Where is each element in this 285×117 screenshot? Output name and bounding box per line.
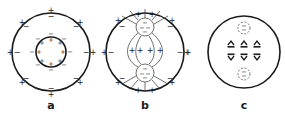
- middle-plus-row-b: + + + +: [129, 46, 164, 55]
- svg-text:+: +: [48, 36, 53, 44]
- svg-text:−: −: [108, 48, 115, 57]
- svg-text:−: −: [23, 74, 30, 83]
- panel-label-b: b: [135, 99, 155, 112]
- svg-text:−: −: [48, 84, 55, 93]
- svg-text:+: +: [101, 48, 108, 57]
- svg-text:−: −: [29, 48, 34, 56]
- svg-text:+: +: [129, 46, 136, 55]
- svg-text:−: −: [119, 22, 126, 31]
- svg-text:−: −: [241, 72, 246, 80]
- svg-text:−: −: [83, 48, 90, 57]
- svg-text:+: +: [135, 86, 142, 95]
- svg-text:+: +: [7, 48, 14, 57]
- svg-text:+: +: [135, 10, 142, 19]
- svg-text:−: −: [73, 74, 80, 83]
- svg-text:−: −: [67, 48, 72, 56]
- svg-text:+: +: [157, 46, 164, 55]
- stray-plus-charge-c: +: [185, 48, 192, 57]
- panel-b: − − − − − − − − + + + + + + + + + + + +: [101, 9, 191, 95]
- panel-c: + − − − −: [185, 16, 280, 88]
- svg-text:−: −: [167, 74, 174, 83]
- svg-text:+: +: [39, 57, 44, 65]
- dashed-circle-charges-c: − − − −: [241, 22, 246, 80]
- upper-dipole-row-c: [228, 41, 261, 48]
- svg-text:+: +: [60, 48, 65, 56]
- svg-text:−: −: [142, 28, 147, 36]
- svg-text:+: +: [149, 86, 156, 95]
- svg-text:+: +: [147, 46, 154, 55]
- svg-text:+: +: [57, 57, 62, 65]
- svg-text:+: +: [149, 10, 156, 19]
- svg-text:−: −: [167, 22, 174, 31]
- svg-text:−: −: [73, 22, 80, 31]
- svg-text:+: +: [137, 46, 144, 55]
- inner-plus-charges-a: + + + + + + + +: [36, 36, 65, 68]
- svg-text:−: −: [14, 48, 21, 57]
- svg-text:−: −: [241, 26, 246, 34]
- svg-text:−: −: [177, 48, 184, 57]
- svg-text:−: −: [23, 22, 30, 31]
- outer-minus-charges-a: − − − − − − − −: [14, 12, 90, 93]
- svg-text:−: −: [119, 74, 126, 83]
- panel-label-c: c: [234, 99, 254, 112]
- svg-text:−: −: [142, 74, 147, 82]
- top-circle-charges-b: − − − −: [139, 19, 150, 36]
- svg-text:+: +: [48, 60, 53, 68]
- svg-text:−: −: [48, 12, 55, 21]
- bottom-circle-charges-b: − − − −: [139, 65, 150, 82]
- svg-text:+: +: [36, 48, 41, 56]
- svg-text:+: +: [57, 39, 62, 47]
- svg-text:+: +: [90, 48, 97, 57]
- svg-text:+: +: [39, 39, 44, 47]
- panel-a: + + + + + + + + − − − − − − − − − − − − …: [7, 6, 97, 99]
- panel-label-a: a: [41, 99, 61, 112]
- lower-dipole-row-c: [228, 54, 261, 61]
